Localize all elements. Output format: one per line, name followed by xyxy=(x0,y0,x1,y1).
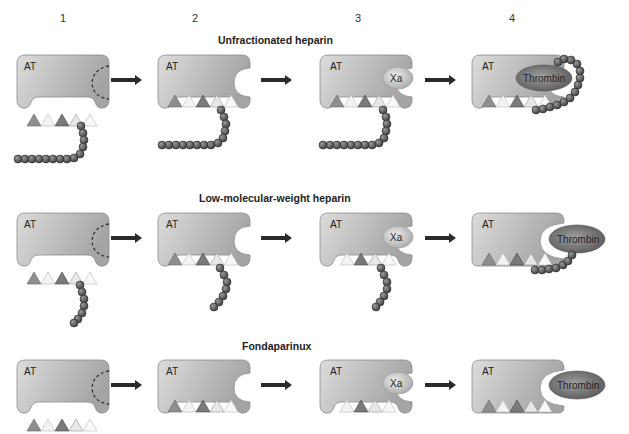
arrow-icon xyxy=(425,380,456,390)
svg-text:AT: AT xyxy=(482,219,494,230)
arrow-icon xyxy=(111,380,142,390)
heparin-mechanism-diagram: AT AT AT Xa xyxy=(0,0,629,434)
svg-text:AT: AT xyxy=(166,219,178,230)
svg-text:AT: AT xyxy=(166,366,178,377)
svg-text:Xa: Xa xyxy=(390,378,403,389)
row-1-unfractionated-heparin: AT AT AT Xa xyxy=(14,55,584,163)
arrow-icon xyxy=(261,233,292,243)
at-label: AT xyxy=(24,61,36,72)
svg-text:Thrombin: Thrombin xyxy=(557,380,599,391)
svg-text:Thrombin: Thrombin xyxy=(523,73,565,84)
svg-text:AT: AT xyxy=(330,366,342,377)
arrow-icon xyxy=(111,75,142,85)
arrow-icon xyxy=(111,233,142,243)
arrow-icon xyxy=(425,233,456,243)
svg-text:AT: AT xyxy=(330,61,342,72)
svg-text:Xa: Xa xyxy=(390,73,403,84)
svg-text:Xa: Xa xyxy=(390,232,403,243)
heparin-chain xyxy=(14,122,88,163)
arrow-icon xyxy=(425,75,456,85)
svg-text:AT: AT xyxy=(24,366,36,377)
svg-text:Thrombin: Thrombin xyxy=(557,234,599,245)
row-2-lmwh: AT AT AT Xa xyxy=(17,213,605,327)
pentasaccharide xyxy=(27,114,97,126)
svg-text:AT: AT xyxy=(482,61,494,72)
svg-text:AT: AT xyxy=(482,366,494,377)
svg-text:AT: AT xyxy=(166,61,178,72)
arrow-icon xyxy=(261,75,292,85)
arrow-icon xyxy=(261,380,292,390)
svg-text:AT: AT xyxy=(24,219,36,230)
svg-text:AT: AT xyxy=(330,219,342,230)
row-3-fondaparinux: AT AT AT Xa AT Thrombin xyxy=(17,360,605,431)
